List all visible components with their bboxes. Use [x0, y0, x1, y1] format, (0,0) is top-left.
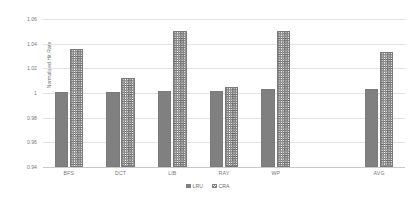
- bar-lru-wp: [261, 89, 275, 167]
- x-axis-label-wp: WP: [250, 170, 302, 176]
- y-axis-tick-label: 0.98: [27, 115, 37, 121]
- x-axis-label-lib: LIB: [146, 170, 198, 176]
- bar-lru-avg: [365, 89, 379, 167]
- y-axis-tick-label: 0.94: [27, 164, 37, 170]
- bar-group-dct: [95, 19, 147, 167]
- bar-cra-ray: [225, 87, 239, 167]
- legend-label: LRU: [193, 183, 204, 189]
- bar-cra-dct: [121, 78, 135, 167]
- y-axis-tick-label: 1.02: [27, 65, 37, 71]
- legend-item-lru[interactable]: LRU: [186, 183, 203, 189]
- x-axis-label-ray: RAY: [198, 170, 250, 176]
- bar-group-lib: [146, 19, 198, 167]
- y-axis-tick-label: 1.06: [27, 16, 37, 22]
- bar-group-ray: [198, 19, 250, 167]
- x-axis-label-dct: DCT: [95, 170, 147, 176]
- y-axis-tick-label: 0.96: [27, 139, 37, 145]
- x-axis-line: [43, 167, 405, 168]
- legend-label: CRA: [218, 183, 229, 189]
- bar-group-bfs: [43, 19, 95, 167]
- bar-lru-ray: [210, 91, 224, 167]
- bar-lru-lib: [158, 91, 172, 167]
- bar-cra-wp: [277, 31, 291, 167]
- bar-lru-bfs: [55, 92, 69, 167]
- bar-cra-lib: [173, 31, 187, 167]
- chart-legend: LRUCRA: [0, 183, 416, 189]
- x-axis-label-avg: AVG: [353, 170, 405, 176]
- bar-groups: [43, 19, 405, 167]
- bar-cra-avg: [380, 52, 394, 167]
- x-axis-tick-labels: BFSDCTLIBRAYWPAVG: [43, 170, 405, 180]
- legend-item-cra[interactable]: CRA: [212, 183, 229, 189]
- y-axis-tick-labels: 0.940.960.9811.021.041.06: [0, 19, 40, 167]
- bar-lru-dct: [106, 92, 120, 167]
- legend-swatch-cra-icon: [212, 184, 216, 188]
- bar-group-wp: [250, 19, 302, 167]
- legend-swatch-lru-icon: [186, 184, 190, 188]
- y-axis-tick-label: 1: [34, 90, 37, 96]
- bar-group-avg: [353, 19, 405, 167]
- bar-chart: Normalized Hit Rate 0.940.960.9811.021.0…: [0, 0, 416, 199]
- x-axis-label-bfs: BFS: [43, 170, 95, 176]
- y-axis-tick-label: 1.04: [27, 41, 37, 47]
- bar-cra-bfs: [70, 49, 84, 167]
